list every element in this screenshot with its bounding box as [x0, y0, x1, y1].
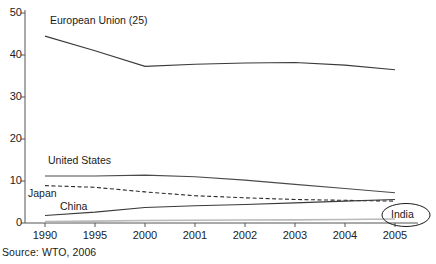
x-tick-label-2002: 2002 — [225, 230, 265, 241]
series-line-india — [45, 219, 395, 222]
chart-plot-area: 50403020100 1990199520002001200220032004… — [0, 0, 436, 242]
series-label-japan: Japan — [28, 188, 57, 199]
series-label-china: China — [60, 201, 87, 212]
x-tick-label-1990: 1990 — [25, 230, 65, 241]
y-tick-label-0: 0 — [0, 217, 22, 228]
y-tick-label-10: 10 — [0, 175, 22, 186]
chart-source-note: Source: WTO, 2006 — [2, 246, 96, 258]
y-tick-label-50: 50 — [0, 7, 22, 18]
y-tick-label-30: 30 — [0, 91, 22, 102]
series-line-china — [45, 199, 395, 215]
series-label-european-union: European Union (25) — [50, 15, 147, 26]
series-line-united-states — [45, 175, 395, 193]
x-tick-label-2001: 2001 — [175, 230, 215, 241]
series-label-india: India — [391, 209, 414, 220]
series-line-european-union-25 — [45, 36, 395, 70]
x-tick-label-2004: 2004 — [325, 230, 365, 241]
y-tick-label-40: 40 — [0, 49, 22, 60]
chart-figure: 50403020100 1990199520002001200220032004… — [0, 0, 436, 264]
series-label-united-states: United States — [48, 155, 111, 166]
y-tick-label-20: 20 — [0, 133, 22, 144]
chart-axes — [21, 10, 418, 227]
chart-series-group — [45, 36, 395, 221]
x-tick-label-2000: 2000 — [125, 230, 165, 241]
x-tick-label-1995: 1995 — [75, 230, 115, 241]
x-tick-label-2005: 2005 — [375, 230, 415, 241]
x-tick-label-2003: 2003 — [275, 230, 315, 241]
